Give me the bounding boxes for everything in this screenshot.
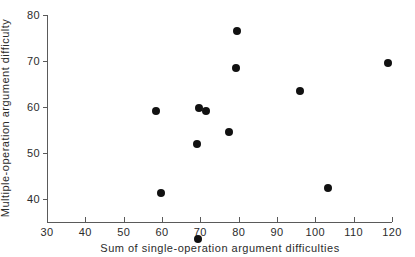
x-tick-label-50: 50 — [117, 226, 130, 238]
y-tick-label-50: 50 — [18, 147, 40, 159]
y-tick-label-70: 70 — [18, 55, 40, 67]
data-point — [233, 27, 241, 35]
y-tick-label-40: 40 — [18, 193, 40, 205]
data-point — [202, 107, 210, 115]
data-point — [232, 64, 240, 72]
data-point — [152, 107, 160, 115]
y-tick-60 — [43, 107, 48, 108]
x-tick-60 — [162, 217, 163, 222]
data-point — [384, 59, 392, 67]
data-point — [225, 128, 233, 136]
y-axis-line — [47, 15, 48, 222]
x-tick-50 — [124, 217, 125, 222]
x-axis-label: Sum of single-operation argument difficu… — [100, 242, 339, 254]
x-tick-label-90: 90 — [270, 226, 283, 238]
x-tick-label-110: 110 — [344, 226, 363, 238]
x-axis-line — [47, 222, 392, 223]
x-tick-70 — [200, 217, 201, 222]
data-point — [324, 184, 332, 192]
x-tick-120 — [392, 217, 393, 222]
y-tick-50 — [43, 153, 48, 154]
x-tick-40 — [85, 217, 86, 222]
scatter-plot-figure: 30405060708090100110120 4050607080 Sum o… — [0, 0, 415, 257]
x-tick-90 — [277, 217, 278, 222]
x-tick-label-30: 30 — [40, 226, 53, 238]
x-tick-30 — [47, 217, 48, 222]
x-tick-label-100: 100 — [306, 226, 326, 238]
x-tick-label-80: 80 — [232, 226, 245, 238]
x-tick-80 — [239, 217, 240, 222]
data-point — [193, 140, 201, 148]
data-point — [157, 189, 165, 197]
y-tick-label-60: 60 — [18, 101, 40, 113]
data-point — [296, 87, 304, 95]
y-tick-70 — [43, 61, 48, 62]
y-tick-40 — [43, 199, 48, 200]
x-tick-label-40: 40 — [79, 226, 92, 238]
x-tick-label-120: 120 — [382, 226, 402, 238]
y-tick-80 — [43, 15, 48, 16]
x-tick-110 — [354, 217, 355, 222]
x-tick-label-60: 60 — [155, 226, 168, 238]
x-tick-100 — [315, 217, 316, 222]
y-tick-label-80: 80 — [18, 9, 40, 21]
y-axis-label: Multiple-operation argument difficulty — [0, 19, 11, 218]
